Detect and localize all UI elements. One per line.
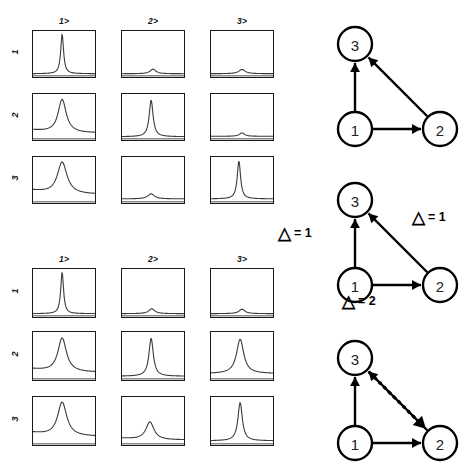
svg-text:2: 2: [436, 122, 444, 139]
svg-text:1: 1: [351, 122, 359, 139]
delta-icon: △: [342, 293, 355, 310]
svg-text:3: 3: [351, 193, 359, 210]
graph-middle: 312: [300, 168, 465, 318]
graph-top: 312: [300, 12, 465, 162]
delta-label-edge-1-2: △= 2: [342, 292, 376, 309]
figure-canvas: 1>2>3>123 1>2>3>123 312312△= 1△= 1△= 231…: [0, 0, 471, 468]
svg-text:3: 3: [351, 351, 359, 368]
delta-icon: △: [412, 209, 425, 226]
delta-value: = 1: [294, 226, 312, 240]
delta-label-edge-2-3: △= 1: [412, 208, 446, 225]
delta-value: = 2: [358, 294, 376, 308]
delta-value: = 1: [428, 210, 446, 224]
delta-icon: △: [278, 225, 291, 242]
svg-text:2: 2: [436, 278, 444, 295]
delta-label-edge-1-3: △= 1: [278, 224, 312, 241]
svg-text:2: 2: [436, 436, 444, 453]
svg-text:3: 3: [351, 37, 359, 54]
svg-text:1: 1: [351, 436, 359, 453]
graph-bottom: 312: [300, 326, 465, 468]
graph-layer: 312312△= 1△= 1△= 2312: [0, 0, 471, 468]
